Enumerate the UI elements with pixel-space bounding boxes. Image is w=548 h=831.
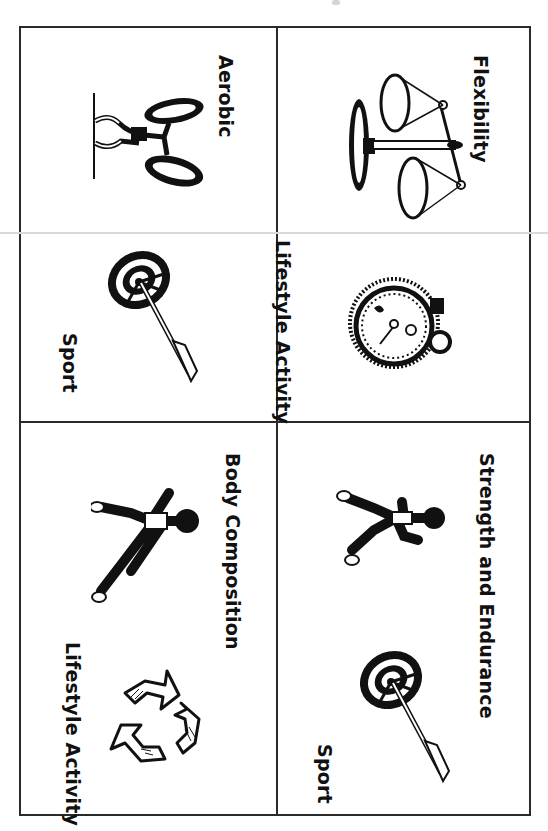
fitness-card-grid: Flexibility Aerobic Lifestyle Activity xyxy=(19,26,531,816)
recycle-icon xyxy=(105,663,205,773)
runner-icon xyxy=(334,478,454,598)
card-label-flexibility: Flexibility xyxy=(470,55,492,163)
card-label-lifestyle-activity: Lifestyle Activity xyxy=(272,240,294,424)
page-fold-line xyxy=(0,232,548,234)
archery-target-icon xyxy=(99,245,209,385)
card-label-body-composition: Body Composition xyxy=(222,453,244,650)
card-label-lifestyle-activity-2: Lifestyle Activity xyxy=(62,642,84,826)
stopwatch-icon xyxy=(344,268,454,378)
cyclist-icon xyxy=(89,93,209,223)
balance-scale-icon xyxy=(341,73,471,223)
archery-target-icon xyxy=(351,645,461,785)
card-label-aerobic: Aerobic xyxy=(215,55,237,138)
card-label-strength-and-endurance: Strength and Endurance xyxy=(476,453,498,719)
sprinter-icon xyxy=(91,473,201,613)
scan-smudge xyxy=(332,0,340,5)
card-label-sport: Sport xyxy=(59,333,81,393)
card-label-sport-2: Sport xyxy=(314,744,336,804)
